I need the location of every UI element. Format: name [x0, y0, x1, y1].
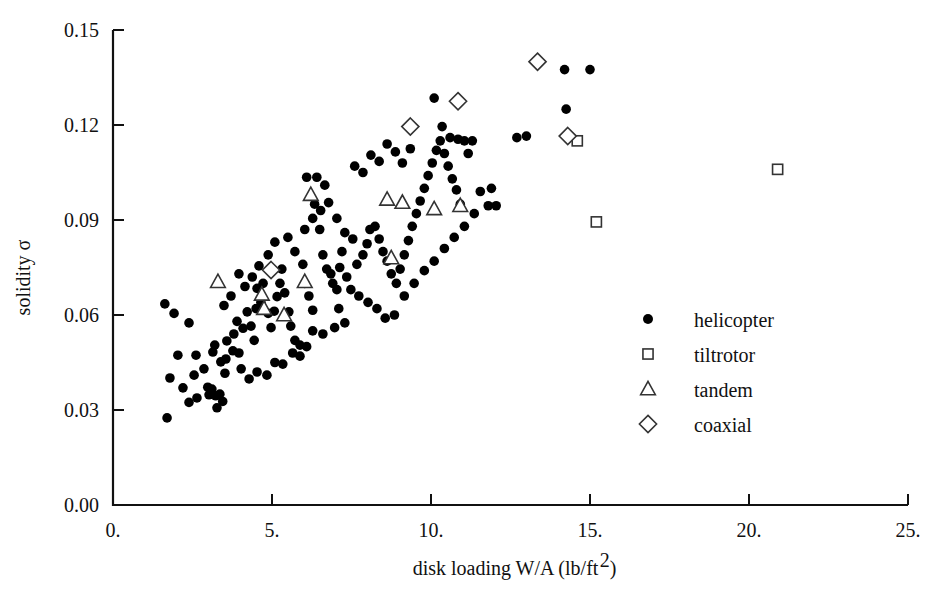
data-point-tandem: [211, 274, 226, 287]
legend-marker-tandem: [641, 381, 656, 394]
data-point-helicopter: [358, 168, 368, 178]
data-point-helicopter: [440, 244, 450, 254]
data-point-helicopter: [378, 247, 388, 257]
data-point-helicopter: [340, 318, 350, 328]
data-point-helicopter: [318, 329, 328, 339]
data-point-helicopter: [352, 260, 362, 270]
data-point-helicopter: [445, 133, 455, 143]
data-point-helicopter: [358, 250, 368, 260]
data-point-tandem: [297, 274, 312, 287]
data-point-helicopter: [203, 382, 213, 392]
data-point-helicopter: [308, 214, 318, 224]
series-helicopter: [160, 65, 595, 423]
data-point-tiltrotor: [591, 217, 601, 227]
data-point-helicopter: [246, 321, 256, 331]
data-point-helicopter: [407, 222, 417, 232]
data-point-helicopter: [290, 247, 300, 257]
axis-lines: [113, 30, 908, 505]
data-point-helicopter: [326, 269, 336, 279]
data-point-helicopter: [463, 149, 473, 159]
data-point-helicopter: [316, 206, 326, 216]
data-point-helicopter: [286, 321, 296, 331]
data-point-tandem: [303, 187, 318, 200]
data-point-helicopter: [415, 196, 425, 206]
data-point-helicopter: [370, 222, 380, 232]
data-point-helicopter: [449, 233, 459, 243]
data-point-helicopter: [404, 236, 414, 246]
data-point-helicopter: [169, 309, 179, 319]
data-point-helicopter: [512, 133, 522, 143]
data-point-helicopter: [395, 264, 405, 274]
data-point-helicopter: [452, 185, 462, 195]
legend-marker-helicopter: [643, 314, 653, 324]
data-point-helicopter: [320, 180, 330, 190]
legend-marker-coaxial: [639, 415, 656, 432]
data-point-helicopter: [236, 364, 246, 374]
data-point-helicopter: [275, 279, 285, 289]
data-point-helicopter: [420, 266, 430, 276]
data-point-helicopter: [427, 158, 437, 168]
data-point-helicopter: [460, 222, 470, 232]
data-point-helicopter: [380, 313, 390, 323]
legend-label-helicopter: helicopter: [694, 309, 774, 332]
scatter-plot: 0.000.030.060.090.120.150.5.10.15.20.25.…: [0, 0, 937, 600]
data-point-helicopter: [270, 358, 280, 368]
x-tick-label: 15.: [578, 519, 603, 541]
data-point-helicopter: [354, 291, 364, 301]
data-point-helicopter: [487, 184, 497, 194]
data-point-helicopter: [270, 237, 280, 247]
data-point-helicopter: [340, 228, 350, 238]
data-point-helicopter: [437, 122, 447, 132]
data-point-helicopter: [298, 260, 308, 270]
data-point-helicopter: [229, 329, 239, 339]
data-point-helicopter: [429, 256, 439, 266]
data-point-helicopter: [184, 318, 194, 328]
data-point-helicopter: [247, 272, 257, 282]
legend-marker-tiltrotor: [643, 349, 653, 359]
data-point-helicopter: [221, 354, 231, 364]
x-axis-title-tail: ): [610, 557, 617, 580]
data-point-helicopter: [412, 209, 422, 219]
data-point-helicopter: [392, 279, 402, 289]
data-point-helicopter: [475, 187, 485, 197]
data-point-helicopter: [308, 326, 318, 336]
data-point-helicopter: [335, 263, 345, 273]
data-point-helicopter: [374, 234, 384, 244]
y-tick-label: 0.12: [64, 114, 99, 136]
data-point-helicopter: [346, 285, 356, 295]
data-point-helicopter: [219, 301, 229, 311]
data-point-helicopter: [332, 285, 342, 295]
data-point-helicopter: [332, 214, 342, 224]
data-point-tandem: [427, 201, 442, 214]
data-point-helicopter: [226, 291, 236, 301]
data-point-helicopter: [258, 279, 268, 289]
data-point-helicopter: [398, 158, 408, 168]
data-point-helicopter: [453, 134, 463, 144]
data-point-coaxial: [262, 261, 279, 278]
data-point-coaxial: [402, 118, 419, 135]
data-point-helicopter: [469, 209, 479, 219]
data-point-tandem: [380, 192, 395, 205]
data-point-helicopter: [448, 174, 458, 184]
data-point-helicopter: [406, 144, 416, 154]
data-point-helicopter: [390, 310, 400, 320]
data-point-helicopter: [324, 198, 334, 208]
data-point-helicopter: [440, 149, 450, 159]
data-point-helicopter: [522, 131, 532, 141]
data-point-helicopter: [210, 340, 220, 350]
data-point-tandem: [395, 195, 410, 208]
x-tick-label: 10.: [419, 519, 444, 541]
data-point-helicopter: [220, 368, 230, 378]
data-point-helicopter: [302, 172, 312, 182]
data-point-helicopter: [178, 383, 188, 393]
data-point-helicopter: [280, 288, 290, 298]
data-point-helicopter: [386, 269, 396, 279]
axis-labels-layer: disk loading W/A (lb/ft2)solidity σ: [12, 239, 616, 580]
x-tick-label: 25.: [896, 519, 921, 541]
data-point-helicopter: [585, 65, 595, 75]
data-point-helicopter: [162, 413, 172, 423]
data-point-helicopter: [300, 225, 310, 235]
data-point-helicopter: [399, 250, 409, 260]
data-point-helicopter: [315, 225, 325, 235]
data-point-helicopter: [288, 348, 298, 358]
